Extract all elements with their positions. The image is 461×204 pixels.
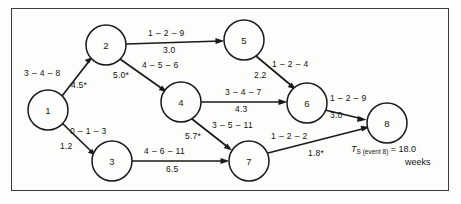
node-8[interactable]: 8: [367, 103, 407, 143]
edge-6-to-8-expected: 3.0: [330, 110, 342, 120]
ts-value: 18.0: [399, 144, 417, 154]
ts-units-label: weeks: [405, 157, 431, 167]
edge-4-to-7-estimates: 3 – 5 – 11: [212, 120, 253, 130]
edge-3-to-7-estimates: 4 – 6 – 11: [144, 146, 185, 156]
edge-7-to-8-expected: 1.8*: [308, 148, 324, 158]
node-1[interactable]: 1: [28, 90, 68, 130]
edge-5-to-6-expected: 2.2: [254, 70, 266, 80]
edge-2-to-4-expected: 5.0*: [113, 70, 129, 80]
edge-1-to-3-expected: 1.2: [60, 141, 72, 151]
edge-2-to-5-estimates: 1 – 2 – 9: [148, 28, 185, 38]
edge-1-to-2-expected: 4.5*: [71, 80, 87, 90]
edge-2-to-4-estimates: 4 – 5 – 6: [142, 60, 179, 70]
edge-2-to-5: [126, 38, 225, 44]
scheduled-time-annotation: TS (event 8) = 18.0: [351, 144, 416, 155]
node-2[interactable]: 2: [86, 25, 126, 65]
edge-3-to-7: [132, 158, 230, 164]
node-5-label: 5: [241, 35, 246, 46]
edge-5-to-6-estimates: 1 – 2 – 4: [272, 59, 309, 69]
node-7-label: 7: [246, 156, 251, 167]
edge-4-to-6-estimates: 3 – 4 – 7: [225, 87, 262, 97]
edge-6-to-8-estimates: 1 – 2 – 9: [330, 93, 367, 103]
node-8-label: 8: [384, 118, 389, 129]
node-6[interactable]: 6: [287, 83, 327, 123]
ts-equals: =: [391, 144, 396, 154]
edge-7-to-8-estimates: 1 – 2 – 2: [271, 131, 308, 141]
node-2-label: 2: [103, 40, 108, 51]
edge-3-to-7-expected: 6.5: [166, 164, 178, 174]
node-5[interactable]: 5: [224, 20, 264, 60]
edge-2-to-5-expected: 3.0: [163, 45, 175, 55]
node-7[interactable]: 7: [229, 141, 269, 181]
edge-1-to-2-estimates: 3 – 4 – 8: [24, 68, 61, 78]
edge-1-to-3-estimates: 0 – 1 – 3: [70, 126, 107, 136]
node-4-label: 4: [178, 97, 183, 108]
edge-4-to-6-expected: 4.3: [235, 104, 247, 114]
edge-4-to-7-expected: 5.7*: [185, 131, 201, 141]
node-3[interactable]: 3: [92, 141, 132, 181]
node-6-label: 6: [304, 98, 309, 109]
figure-root: 1 2 3 4 5 6 7: [0, 0, 461, 204]
node-1-label: 1: [45, 105, 50, 116]
network-graph-canvas: 1 2 3 4 5 6 7: [0, 0, 461, 204]
node-3-label: 3: [109, 156, 114, 167]
edge-1-to-2: [62, 57, 93, 96]
node-4[interactable]: 4: [161, 82, 201, 122]
ts-subscript: S (event 8): [357, 148, 389, 155]
